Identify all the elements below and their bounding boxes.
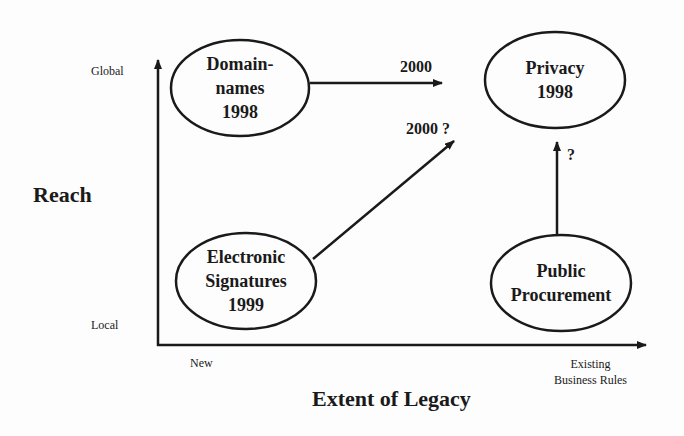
x-axis-right-label-line1: Existing — [554, 356, 627, 372]
node-domain-names: Domain- names 1998 — [171, 40, 309, 136]
y-axis-top-label: Global — [91, 64, 124, 79]
node-line: Privacy — [526, 56, 585, 80]
edge-esig-to-2000 — [313, 141, 454, 259]
node-line: Signatures — [205, 269, 287, 293]
node-line: 1999 — [228, 293, 264, 317]
node-line: 1998 — [222, 100, 258, 124]
edge-label-procurement: ? — [567, 146, 575, 164]
y-axis-title: Reach — [33, 182, 92, 208]
edge-label-domain: 2000 — [400, 58, 432, 76]
node-privacy: Privacy 1998 — [485, 32, 625, 128]
x-axis-left-label: New — [190, 356, 213, 371]
edge-label-esig: 2000 ? — [406, 120, 450, 138]
diagram-canvas: Global Local Reach New Existing Business… — [0, 0, 684, 436]
node-line: Electronic — [207, 245, 286, 269]
node-line: Public — [536, 259, 585, 283]
node-line: Procurement — [511, 283, 611, 307]
x-axis-right-label: Existing Business Rules — [554, 356, 627, 388]
x-axis-right-label-line2: Business Rules — [554, 372, 627, 388]
node-line: Domain- — [207, 52, 274, 76]
node-line: names — [216, 76, 265, 100]
y-axis-bottom-label: Local — [91, 318, 118, 333]
node-public-procurement: Public Procurement — [491, 235, 631, 331]
node-line: 1998 — [537, 80, 573, 104]
x-axis-title: Extent of Legacy — [312, 386, 471, 412]
node-electronic-signatures: Electronic Signatures 1999 — [176, 233, 316, 329]
